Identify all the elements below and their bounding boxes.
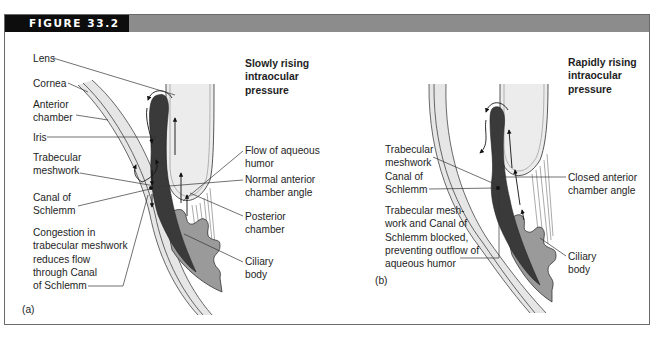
label-iris: Iris bbox=[33, 131, 47, 144]
label-canal-of-schlemm-b: Canal of Schlemm bbox=[385, 170, 427, 197]
label-trabecular-meshwork: Trabecular meshwork bbox=[33, 151, 81, 178]
panel-b-tag: (b) bbox=[375, 274, 387, 287]
label-closed-anterior-chamber-angle: Closed anterior chamber angle bbox=[568, 171, 637, 198]
panel-b-title: Rapidly rising intraocular pressure bbox=[568, 56, 637, 96]
label-posterior-chamber: Posterior chamber bbox=[245, 210, 286, 237]
label-ciliary-body-a: Ciliary body bbox=[245, 255, 273, 282]
label-blocked: Trabecular mesh- work and Canal of Schle… bbox=[385, 204, 479, 270]
label-cornea: Cornea bbox=[33, 77, 66, 90]
label-flow-of-aqueous-humor: Flow of aqueous humor bbox=[245, 144, 320, 171]
label-anterior-chamber: Anterior chamber bbox=[33, 98, 73, 125]
label-trabecular-meshwork-b: Trabecular meshwork bbox=[385, 143, 433, 170]
panel-a-title: Slowly rising intraocular pressure bbox=[245, 57, 309, 97]
label-normal-anterior-chamber-angle: Normal anterior chamber angle bbox=[245, 173, 315, 200]
panel-b-drawing bbox=[429, 84, 566, 313]
label-ciliary-body-b: Ciliary body bbox=[568, 250, 596, 277]
label-canal-of-schlemm: Canal of Schlemm bbox=[33, 191, 75, 218]
panel-a-tag: (a) bbox=[22, 303, 34, 316]
label-lens: Lens bbox=[33, 52, 55, 65]
label-congestion: Congestion in trabecular meshwork reduce… bbox=[33, 226, 128, 292]
